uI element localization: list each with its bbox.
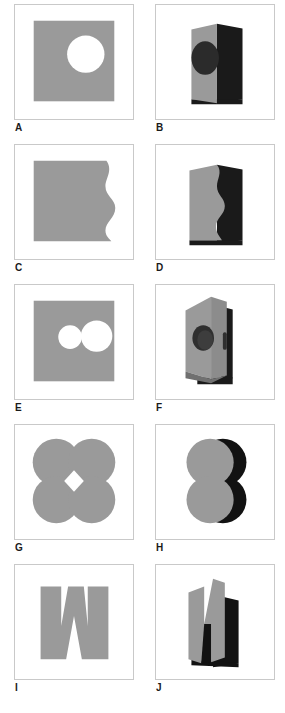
panel-i xyxy=(14,564,134,680)
panel-label-g: G xyxy=(15,542,23,554)
folded-zigzag-n-illustration xyxy=(156,565,274,679)
figure-row-3: E F xyxy=(0,280,285,420)
panel-label-c: C xyxy=(15,262,22,274)
panel-h xyxy=(155,424,275,540)
folded-quatrefoil-illustration xyxy=(156,425,274,539)
panel-label-d: D xyxy=(156,262,163,274)
back-panel xyxy=(217,24,243,104)
bottom-edge xyxy=(189,240,242,245)
panel-label-i: I xyxy=(15,682,18,694)
panel-c xyxy=(14,144,134,260)
panel-label-j: J xyxy=(156,682,162,694)
panel-label-e: E xyxy=(15,402,22,414)
panel-b xyxy=(155,4,275,120)
panel-e xyxy=(14,284,134,400)
folded-square-wavy-edge-illustration xyxy=(156,145,274,259)
figure-row-1: A B xyxy=(0,0,285,140)
figure-container: A B C xyxy=(0,0,285,713)
figure-row-4: G H xyxy=(0,420,285,560)
square-two-holes-illustration xyxy=(15,285,133,399)
quatrefoil-illustration xyxy=(15,425,133,539)
slot-hole xyxy=(223,332,227,350)
panel-a xyxy=(14,4,134,120)
circular-hole xyxy=(67,35,104,72)
front-lobe-bottom xyxy=(187,476,234,523)
oval-hole-inner xyxy=(197,330,213,350)
panel-d xyxy=(155,144,275,260)
square-one-hole-illustration xyxy=(15,5,133,119)
figure-row-5: I J xyxy=(0,560,285,713)
panel-label-f: F xyxy=(156,402,162,414)
panel-f xyxy=(155,284,275,400)
panel-label-b: B xyxy=(156,122,163,134)
panel-label-h: H xyxy=(156,542,163,554)
folded-square-two-holes-illustration xyxy=(156,285,274,399)
zigzag-w-illustration xyxy=(15,565,133,679)
folded-square-one-hole-illustration xyxy=(156,5,274,119)
panel-j xyxy=(155,564,275,680)
zigzag-body xyxy=(41,587,109,660)
panel-g xyxy=(14,424,134,540)
figure-row-2: C D xyxy=(0,140,285,280)
large-circular-hole xyxy=(81,320,112,351)
elliptical-hole xyxy=(191,41,219,74)
square-wavy-edge-illustration xyxy=(15,145,133,259)
small-circular-hole xyxy=(58,325,82,349)
panel-label-a: A xyxy=(15,122,22,134)
wavy-square-body xyxy=(34,161,116,242)
